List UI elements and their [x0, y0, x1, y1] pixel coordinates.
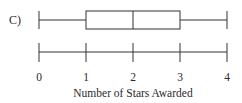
tick-label: 2	[130, 71, 136, 83]
x-axis-label: Number of Stars Awarded	[73, 87, 193, 99]
axis-ticks: 01234	[36, 43, 230, 83]
tick-label: 3	[177, 71, 183, 83]
tick-label: 1	[83, 71, 89, 83]
box-plot	[39, 11, 227, 29]
option-label: C)	[9, 13, 21, 27]
tick-label: 0	[36, 71, 42, 83]
tick-label: 4	[224, 71, 230, 83]
box-plot-figure: C) 01234 Number of Stars Awarded	[0, 0, 242, 103]
